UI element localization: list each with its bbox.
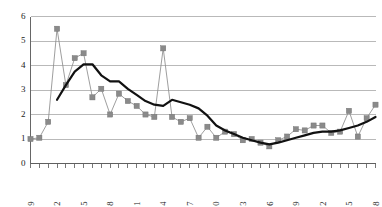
data-point-marker	[284, 134, 289, 139]
data-point-marker	[125, 98, 130, 103]
x-tick-label-1955: 1955	[79, 202, 89, 207]
y-tick-label-3: 3	[21, 84, 26, 94]
x-tick-label-1964: 1964	[158, 201, 168, 206]
data-point-marker	[187, 116, 192, 121]
y-tick-label-1: 1	[21, 133, 26, 143]
y-tick-label-5: 5	[21, 35, 26, 45]
data-point-marker	[46, 119, 51, 124]
y-tick-label-2: 2	[21, 109, 26, 119]
data-point-marker	[152, 114, 157, 119]
data-point-marker	[311, 123, 316, 128]
x-tick-label-1973: 1973	[238, 202, 248, 207]
data-point-marker	[81, 51, 86, 56]
data-point-marker	[108, 112, 113, 117]
y-tick-label-4: 4	[21, 60, 26, 70]
data-point-marker	[346, 108, 351, 113]
data-point-marker	[99, 86, 104, 91]
x-tick-label-1967: 1967	[185, 202, 195, 207]
data-point-marker	[178, 119, 183, 124]
data-point-marker	[54, 26, 59, 31]
data-point-marker	[90, 95, 95, 100]
chart-container: 0123456 19491952195519581961196419671970…	[0, 0, 382, 206]
data-point-marker	[28, 136, 33, 141]
x-tick-label-1949: 1949	[26, 202, 36, 207]
data-point-marker	[116, 91, 121, 96]
data-point-marker	[302, 128, 307, 133]
x-tick-label-1976: 1976	[265, 202, 275, 207]
data-point-marker	[355, 134, 360, 139]
data-point-marker	[373, 102, 378, 107]
data-point-marker	[205, 124, 210, 129]
x-tick-label-1952: 1952	[52, 202, 62, 207]
x-tick-label-1979: 1979	[291, 202, 301, 207]
data-point-marker	[37, 135, 42, 140]
x-tick-label-1958: 1958	[105, 202, 115, 207]
x-tick-label-1982: 1982	[318, 202, 328, 207]
data-point-marker	[214, 135, 219, 140]
data-point-marker	[72, 56, 77, 61]
line-chart: 0123456 19491952195519581961196419671970…	[0, 0, 382, 206]
x-tick-label-1985: 1985	[344, 202, 354, 207]
x-tick-label-1961: 1961	[132, 202, 142, 207]
data-point-marker	[169, 114, 174, 119]
data-point-marker	[134, 103, 139, 108]
data-point-marker	[320, 123, 325, 128]
data-point-marker	[161, 46, 166, 51]
y-tick-label-0: 0	[21, 158, 26, 168]
x-tick-label-1988: 1988	[371, 202, 381, 207]
data-point-marker	[196, 135, 201, 140]
y-tick-label-6: 6	[21, 11, 26, 21]
x-tick-label-1970: 1970	[211, 202, 221, 207]
data-point-marker	[293, 127, 298, 132]
data-point-marker	[143, 112, 148, 117]
